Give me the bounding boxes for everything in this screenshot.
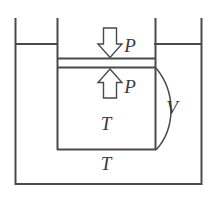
label-temperature-gas: T bbox=[101, 113, 113, 134]
piston bbox=[57, 59, 156, 68]
down-arrow bbox=[98, 28, 122, 58]
down-arrow-shape bbox=[98, 28, 122, 58]
figure-root: P P V T T bbox=[0, 0, 218, 207]
label-pressure-bottom: P bbox=[123, 76, 136, 97]
piston-diagram-svg: P P V T T bbox=[0, 0, 218, 207]
label-pressure-top: P bbox=[123, 35, 136, 56]
up-arrow bbox=[98, 69, 122, 98]
up-arrow-shape bbox=[98, 69, 122, 98]
label-volume: V bbox=[166, 97, 180, 118]
label-temperature-bath: T bbox=[101, 153, 113, 174]
